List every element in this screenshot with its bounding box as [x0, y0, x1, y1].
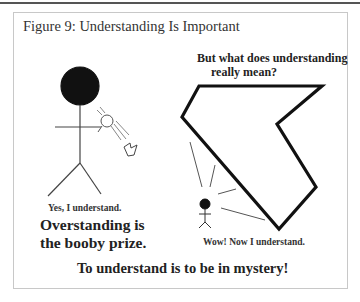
illustration	[0, 0, 360, 302]
overstanding-line-2: the booby prize.	[40, 234, 146, 252]
right-caption: Wow! Now I understand.	[203, 237, 305, 247]
light-bulb-icon	[97, 107, 137, 156]
overstanding-text: Overstanding is the booby prize.	[40, 216, 146, 252]
stick-figure-large-icon	[48, 67, 101, 196]
stick-figure-small-icon	[199, 199, 211, 228]
overstanding-line-1: Overstanding is	[40, 216, 146, 234]
conclusion-text: To understand is to be in mystery!	[77, 260, 288, 277]
left-caption: Yes, I understand.	[48, 203, 121, 213]
